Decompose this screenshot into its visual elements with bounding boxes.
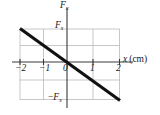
y-axis-negative-fs-label: −Fs	[48, 93, 62, 103]
x-axis-title: x(cm)	[123, 55, 147, 65]
x-axis-title-unit: (cm)	[129, 54, 147, 64]
y-axis-positive-fs-label: Fs	[55, 21, 63, 31]
fs-negative-subscript: s	[59, 96, 62, 103]
x-tick-label-two: 2	[116, 64, 121, 74]
force-data-line	[20, 29, 120, 101]
x-axis-title-var: x	[123, 54, 127, 64]
x-tick-label-one: 1	[90, 64, 95, 74]
fs-positive-subscript: s	[61, 24, 64, 31]
x-tick-label-minus1: −1	[39, 64, 50, 74]
x-tick-label-minus2: −2	[15, 64, 26, 74]
x-tick-label-zero: 0	[63, 64, 68, 74]
y-axis-title: Fx	[60, 1, 69, 11]
spring-force-graph-figure: Fx Fs −Fs x(cm) −2 −1 0 1 2	[0, 0, 160, 115]
y-axis-title-subscript: x	[66, 4, 69, 11]
